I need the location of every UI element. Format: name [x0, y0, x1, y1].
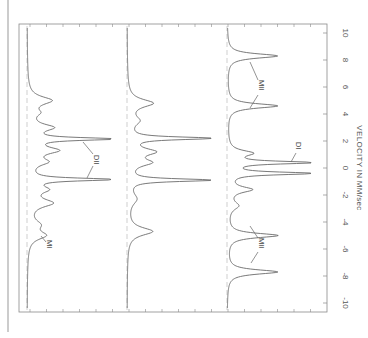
- x-axis-title: VELOCITY IN MM/sec: [355, 125, 364, 210]
- annotations: MI DII MII DI MII: [41, 62, 303, 263]
- plot-frame: [19, 24, 327, 312]
- spectrum-baselines: [27, 26, 227, 310]
- tick-label: -2: [341, 191, 350, 199]
- tick-label: 4: [341, 112, 350, 117]
- tick-label: 8: [341, 58, 350, 63]
- axis-ticks: [30, 24, 327, 312]
- annotation-mii-lower: MII: [257, 238, 266, 248]
- tick-label: -4: [341, 218, 350, 226]
- tick-label: 6: [341, 85, 350, 90]
- tick-label: -10: [341, 297, 350, 309]
- spectrum-line: [227, 28, 311, 308]
- x-tick-labels: -10 -8 -6 -4 -2 0 2 4 6 8 10: [341, 29, 350, 310]
- tick-label: 10: [341, 29, 350, 38]
- tick-label: -8: [341, 272, 350, 280]
- spectrum-line: [127, 28, 211, 308]
- mossbauer-spectra-chart: -10 -8 -6 -4 -2 0 2 4 6 8 10 VELOCITY IN…: [0, 0, 368, 338]
- tick-label: -6: [341, 245, 350, 253]
- tick-label: 0: [341, 166, 350, 171]
- annotation-dii: DII: [92, 155, 101, 165]
- annotation-mii-upper: MII: [257, 80, 266, 90]
- annotation-di: DI: [294, 142, 303, 150]
- spectrum-line: [27, 28, 111, 308]
- spectra-lines: [27, 28, 311, 308]
- annotation-mi: MI: [45, 240, 54, 248]
- tick-label: 2: [341, 139, 350, 144]
